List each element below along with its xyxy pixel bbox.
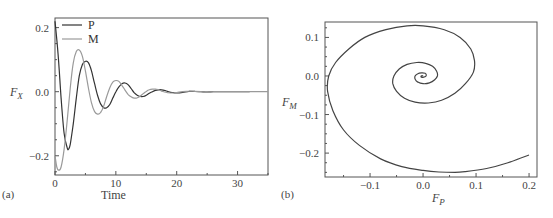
panel-a-y-tick-label: 0.0 [35, 86, 49, 98]
panel-b-x-tick-label: 0.2 [522, 179, 536, 191]
panel-a-y-tick-label: 0.2 [35, 22, 49, 34]
legend-label-m: M [88, 32, 99, 46]
legend-label-p: P [88, 18, 95, 32]
panel-a-x-tick-label: 20 [171, 177, 183, 189]
panel-b-frame [325, 22, 537, 177]
panel-b-ticks: −0.10.00.10.20.10.0−0.1−0.2 [299, 28, 536, 191]
panel-b: −0.10.00.10.20.10.0−0.1−0.2 FM FP (b) [281, 22, 537, 207]
panel-a-series-1 [55, 50, 268, 171]
panel-a-lines [55, 21, 268, 170]
figure-canvas: 01020300.20.0−0.2 P M FX Time (a) −0.10.… [0, 0, 553, 218]
panel-b-x-tick-label: 0.0 [416, 179, 430, 191]
panel-b-y-tick-label: 0.0 [305, 70, 319, 82]
y-axis-title-a: FX [9, 85, 23, 101]
panel-a: 01020300.20.0−0.2 P M FX Time (a) [2, 18, 268, 202]
x-axis-title-b: FP [431, 191, 445, 207]
panel-b-y-tick-label: −0.2 [299, 147, 319, 159]
panel-a-ticks: 01020300.20.0−0.2 [29, 22, 268, 189]
panel-b-y-tick-label: 0.1 [305, 31, 319, 43]
panel-a-frame [55, 18, 268, 175]
legend: P M [62, 18, 99, 46]
x-axis-title-a: Time [101, 188, 126, 202]
panel-label-a: (a) [2, 188, 15, 201]
panel-b-lines [327, 25, 529, 172]
panel-a-y-tick-label: −0.2 [29, 150, 49, 162]
y-axis-title-b: FM [281, 95, 297, 111]
panel-b-y-tick-label: −0.1 [299, 109, 319, 121]
panel-b-x-tick-label: 0.1 [469, 179, 483, 191]
panel-b-series-0 [327, 25, 529, 172]
panel-a-x-tick-label: 0 [52, 177, 58, 189]
panel-b-x-tick-label: −0.1 [360, 179, 380, 191]
panel-a-series-0 [55, 21, 250, 150]
panel-a-x-tick-label: 30 [232, 177, 244, 189]
panel-label-b: (b) [281, 188, 294, 201]
